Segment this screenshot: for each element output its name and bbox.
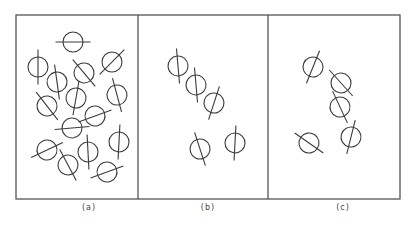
molecule-axis [100,50,125,75]
molecule-axis [55,65,60,100]
molecule [93,43,132,82]
molecule-axis [55,126,90,129]
panel-label-a: (a) [82,203,96,212]
outer-frame [16,15,400,199]
molecule-axis [79,110,112,122]
molecule [56,32,91,52]
molecule-axis [176,49,179,84]
molecule-axis [209,86,220,119]
molecule-axis [195,132,206,165]
molecule-axis [118,125,120,160]
molecule [297,47,329,87]
molecule [65,53,103,93]
molecule [167,48,190,85]
molecule [185,67,208,104]
molecule [224,125,246,161]
molecule [185,129,215,168]
molecule [51,145,85,185]
molecule [27,134,67,167]
frame [16,15,400,199]
panel-c-tilted [289,47,365,161]
molecule [289,125,329,161]
panel-label-c: (c) [336,203,350,212]
panel-b-nematic [167,48,246,169]
molecule-axis [73,60,95,87]
molecule-axis [31,143,63,158]
molecule [199,83,229,122]
molecule-axis [306,51,319,83]
panel-a-isotropic [27,32,132,187]
molecule [103,76,131,115]
molecule-axis [91,166,124,178]
molecule-axis [73,81,79,115]
molecule-axis [333,91,348,123]
molecule-axis [87,135,89,170]
molecule [77,134,99,170]
molecule-axis [60,150,76,181]
molecule [337,118,365,157]
molecule [28,50,48,85]
molecule [108,124,130,160]
molecule-axis [112,78,121,112]
molecule-axis [234,126,236,161]
molecule-axis [347,120,355,154]
panel-label-b: (b) [201,203,215,212]
figure-canvas [0,0,410,226]
molecule-axis [194,68,197,103]
